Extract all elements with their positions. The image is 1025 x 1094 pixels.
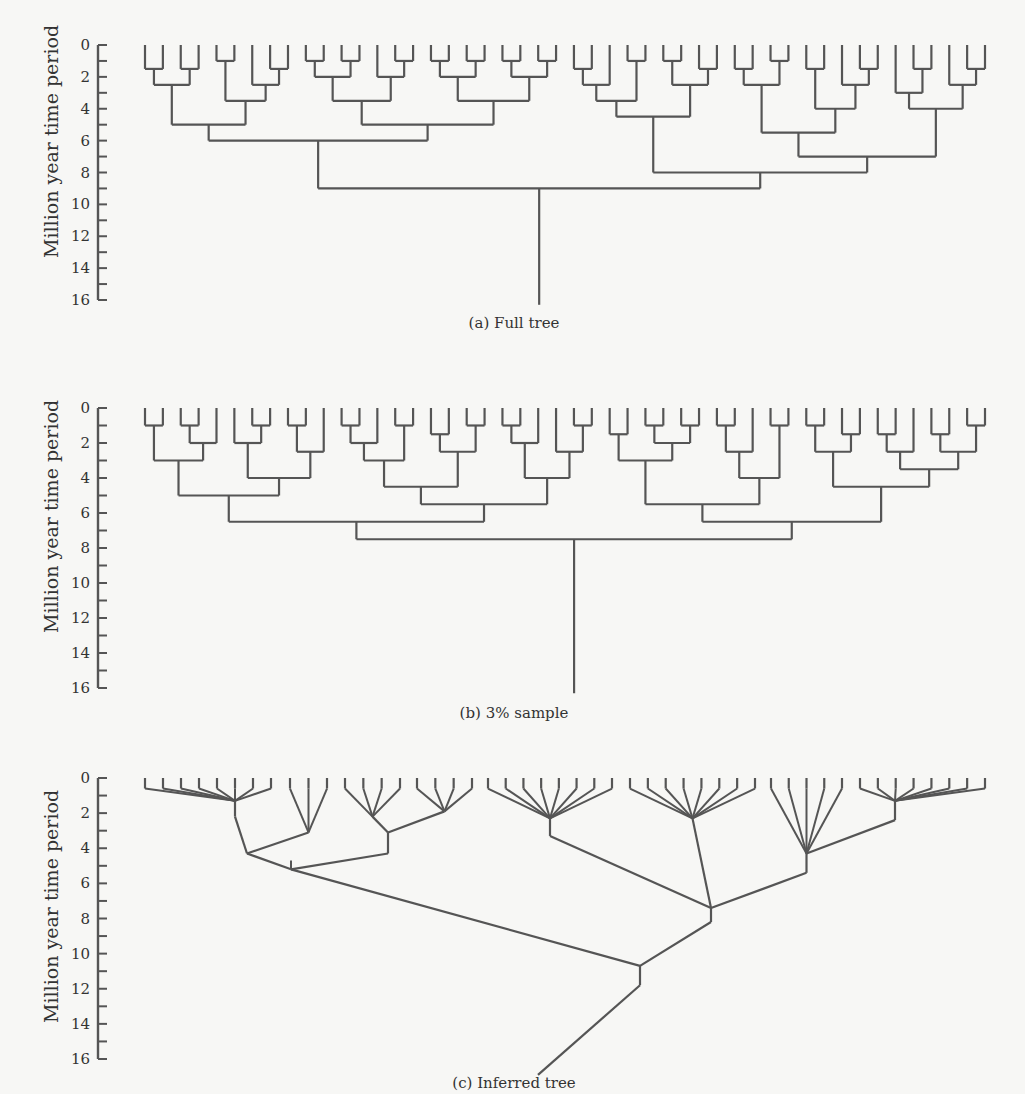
leaf-branch (807, 789, 825, 854)
leaf-branch (290, 789, 309, 833)
y-tick-label: 6 (80, 132, 90, 150)
y-tick-label: 4 (80, 839, 90, 857)
leaf-branch (550, 789, 612, 819)
y-tick-label: 2 (80, 804, 90, 822)
y-tick-label: 10 (71, 195, 90, 213)
branch (711, 873, 807, 908)
leaf-branch (693, 789, 756, 819)
branch (373, 817, 389, 833)
y-tick-label: 12 (71, 609, 90, 627)
y-tick-label: 2 (80, 68, 90, 86)
y-tick-label: 14 (71, 644, 90, 662)
y-tick-label: 12 (71, 980, 90, 998)
leaf-branch (235, 789, 271, 801)
branch (550, 836, 711, 908)
y-tick-label: 0 (80, 769, 90, 787)
leaf-branch (789, 789, 807, 854)
y-tick-label: 10 (71, 945, 90, 963)
y-tick-label: 0 (80, 399, 90, 417)
y-tick-label: 4 (80, 469, 90, 487)
y-tick-label: 14 (71, 1015, 90, 1033)
y-tick-label: 14 (71, 259, 90, 277)
branch (291, 854, 388, 870)
y-tick-label: 8 (80, 910, 90, 928)
branch (640, 922, 711, 966)
branch (693, 818, 712, 908)
y-tick-label: 12 (71, 227, 90, 245)
branch (247, 832, 309, 853)
leaf-branch (895, 789, 896, 801)
y-tick-label: 8 (80, 539, 90, 557)
leaf-branch (771, 789, 807, 854)
branch (388, 811, 445, 832)
branch (291, 869, 640, 966)
y-tick-label: 0 (80, 36, 90, 54)
branch (247, 854, 291, 870)
y-tick-label: 16 (71, 679, 90, 697)
phylogeny-figure: 024681012141602468101214160246810121416 (0, 0, 1025, 1094)
y-tick-label: 6 (80, 504, 90, 522)
y-tick-label: 2 (80, 434, 90, 452)
leaf-branch (630, 789, 693, 819)
branch (235, 817, 247, 854)
leaf-branch (807, 789, 843, 854)
y-tick-label: 6 (80, 874, 90, 892)
y-tick-label: 10 (71, 574, 90, 592)
y-tick-label: 16 (71, 1050, 90, 1068)
leaf-branch (860, 789, 895, 801)
branch (807, 820, 896, 853)
leaf-branch (488, 789, 550, 819)
y-tick-label: 4 (80, 100, 90, 118)
root-branch (538, 985, 640, 1075)
y-tick-label: 8 (80, 164, 90, 182)
leaf-branch (309, 789, 328, 833)
y-tick-label: 16 (71, 291, 90, 309)
